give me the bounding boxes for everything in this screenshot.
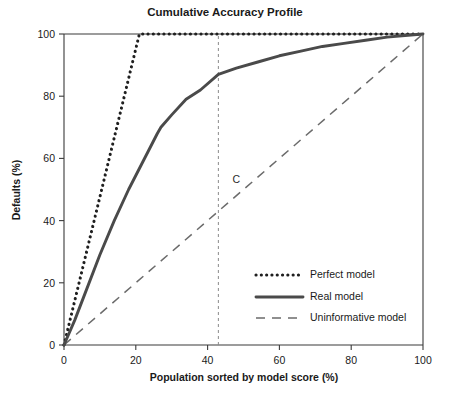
x-tick-label: 20 [130,354,142,366]
y-tick-label: 60 [43,152,55,164]
x-tick-label: 40 [202,354,214,366]
x-tick-label: 80 [345,354,357,366]
x-axis-label: Population sorted by model score (%) [150,371,338,383]
chart-canvas: Cumulative Accuracy Profile 020406080100… [0,0,450,397]
legend-label: Real model [310,290,363,302]
x-tick-label: 100 [414,354,432,366]
y-tick-label: 80 [43,90,55,102]
y-tick-label: 40 [43,215,55,227]
y-axis-label: Defaults (%) [10,160,22,221]
annotation-label-c: C [233,173,241,185]
y-tick-label: 20 [43,277,55,289]
y-tick-label: 100 [37,28,55,40]
legend-label: Uninformative model [310,311,406,323]
y-tick-label: 0 [49,339,55,351]
x-tick-label: 0 [61,354,67,366]
chart-title: Cumulative Accuracy Profile [147,6,303,18]
x-tick-label: 60 [274,354,286,366]
cap-chart: Cumulative Accuracy Profile 020406080100… [0,0,450,397]
annotation-labels: C [233,173,241,185]
legend-label: Perfect model [310,268,375,280]
